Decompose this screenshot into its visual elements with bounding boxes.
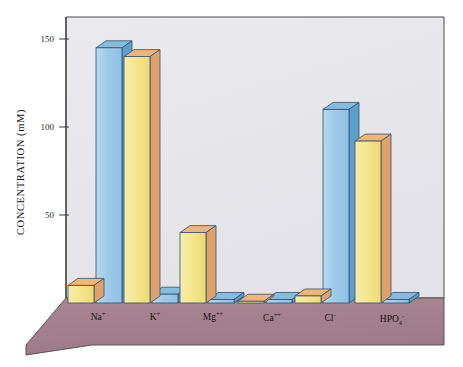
bar-intracellular-HPO4- <box>355 134 391 303</box>
bar-intracellular-Mg++ <box>180 226 216 303</box>
bar-chart-figure: 50100150 CONCENTRATION (mM) Na+K+Mg++Ca+… <box>0 0 463 367</box>
concentration-bar-chart: 50100150 CONCENTRATION (mM) Na+K+Mg++Ca+… <box>0 0 463 367</box>
y-axis-title: CONCENTRATION (mM) <box>15 109 27 235</box>
y-axis-tick-label: 100 <box>41 122 55 132</box>
bar-extracellular-Cl- <box>323 102 359 303</box>
bar-intracellular-Na+ <box>68 278 104 303</box>
y-axis-tick-label: 50 <box>45 210 55 220</box>
bar-intracellular-K+ <box>124 50 160 303</box>
y-axis-tick-label: 150 <box>41 34 55 44</box>
